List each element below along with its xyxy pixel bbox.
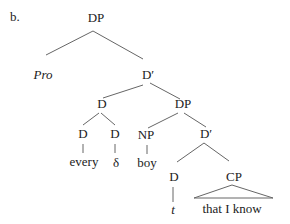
- node-dp-root: DP: [88, 11, 105, 25]
- leaf-every: every: [70, 155, 99, 169]
- node-cp: CP: [226, 170, 242, 184]
- node-d-trace: D: [169, 170, 178, 184]
- leaf-delta: δ: [113, 156, 119, 170]
- node-dbar-2: D′: [200, 127, 212, 141]
- node-dp-2: DP: [175, 97, 192, 111]
- node-d-complex: D: [97, 97, 106, 111]
- node-np: NP: [138, 128, 155, 142]
- leaf-boy: boy: [137, 156, 157, 170]
- node-d-delta: D: [110, 127, 119, 141]
- tree-edges: [0, 0, 290, 224]
- node-pro: Pro: [33, 68, 52, 82]
- example-label: b.: [10, 10, 20, 24]
- node-dbar-1: D′: [142, 68, 154, 82]
- leaf-cp-content: that I know: [202, 202, 261, 216]
- node-d-every: D: [78, 127, 87, 141]
- leaf-trace: t: [171, 203, 175, 217]
